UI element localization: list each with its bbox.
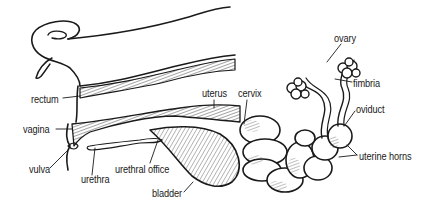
label-uterus: uterus — [202, 89, 227, 99]
label-vulva: vulva — [29, 165, 50, 175]
ovary-left — [287, 78, 309, 99]
body-outline-top — [68, 7, 230, 39]
label-urethra: urethra — [81, 175, 110, 185]
label-ovary: ovary — [334, 34, 356, 44]
label-urethral-office: urethral office — [115, 165, 169, 175]
urethra-tube — [87, 139, 162, 151]
label-rectum: rectum — [31, 95, 59, 105]
label-cervix: cervix — [238, 89, 261, 99]
anatomy-diagram: rectum vagina vulva urethra urethral off… — [0, 0, 435, 215]
label-vagina: vagina — [23, 125, 50, 135]
label-oviduct: oviduct — [356, 105, 385, 115]
label-bladder: bladder — [152, 189, 182, 199]
bladder-shape — [150, 127, 239, 187]
label-uterine-horns: uterine horns — [359, 152, 412, 162]
label-fimbria: fimbria — [353, 79, 380, 89]
